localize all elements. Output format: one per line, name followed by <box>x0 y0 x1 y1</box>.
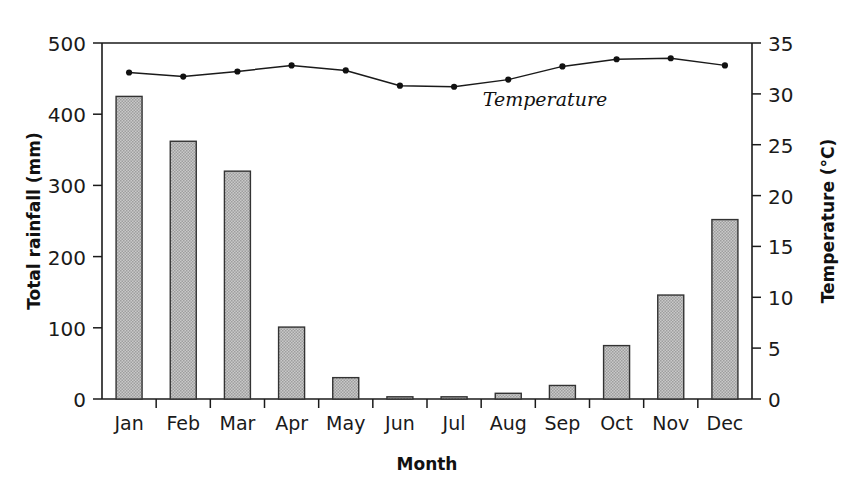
right-tick-group: 0 <box>752 388 781 412</box>
temperature-marker <box>234 68 240 74</box>
temperature-marker <box>668 55 674 61</box>
x-axis-title: Month <box>397 454 458 474</box>
temperature-marker <box>397 83 403 89</box>
rainfall-bar <box>224 171 250 399</box>
rainfall-bar <box>333 378 359 399</box>
right-tick-label: 20 <box>768 185 793 209</box>
right-tick-label: 10 <box>768 286 793 310</box>
x-tick-label: Nov <box>652 412 689 434</box>
right-tick-label: 15 <box>768 235 793 259</box>
temperature-marker <box>180 73 186 79</box>
left-tick-group: 200 <box>48 246 102 270</box>
temperature-marker <box>343 67 349 73</box>
right-tick-label: 5 <box>768 337 781 361</box>
right-tick-label: 0 <box>768 388 781 412</box>
left-tick-group: 500 <box>48 32 102 56</box>
temperature-marker <box>126 69 132 75</box>
right-tick-group: 30 <box>752 83 793 107</box>
plot-frame <box>102 43 752 399</box>
right-axis-ticks: 35 30 25 20 15 10 <box>752 32 793 412</box>
temperature-marker <box>505 77 511 83</box>
rainfall-bar <box>712 220 738 399</box>
right-tick-group: 5 <box>752 337 781 361</box>
x-axis-ticks <box>156 399 698 408</box>
rainfall-bar <box>116 96 142 399</box>
right-tick-group: 25 <box>752 134 793 158</box>
rainfall-bar <box>495 393 521 399</box>
left-tick-label: 500 <box>48 32 86 56</box>
right-axis-title: Temperature (°C) <box>818 139 838 304</box>
right-tick-label: 30 <box>768 83 793 107</box>
x-tick-label: Jan <box>113 412 143 434</box>
rainfall-bars <box>116 96 738 399</box>
temperature-marker <box>722 62 728 68</box>
temperature-marker <box>613 56 619 62</box>
x-tick-label: Oct <box>600 412 633 434</box>
temperature-marker <box>451 84 457 90</box>
left-tick-label: 100 <box>48 317 86 341</box>
right-tick-group: 20 <box>752 185 793 209</box>
right-tick-group: 10 <box>752 286 793 310</box>
rainfall-bar <box>441 397 467 399</box>
x-tick-label: Jun <box>384 412 415 434</box>
rainfall-bar <box>279 327 305 399</box>
left-tick-label: 200 <box>48 246 86 270</box>
x-axis-labels: JanFebMarAprMayJunJulAugSepOctNovDec <box>113 412 743 434</box>
right-tick-label: 25 <box>768 134 793 158</box>
right-tick-group: 15 <box>752 235 793 259</box>
left-tick-group: 100 <box>48 317 102 341</box>
temperature-series <box>126 55 728 90</box>
x-tick-label: Apr <box>275 412 308 434</box>
climograph-figure: 500 400 300 200 100 0 <box>0 0 865 492</box>
x-tick-label: May <box>326 412 365 434</box>
left-tick-group: 400 <box>48 103 102 127</box>
x-tick-label: Jul <box>442 412 466 434</box>
chart-canvas: 500 400 300 200 100 0 <box>0 0 865 492</box>
rainfall-bar <box>170 141 196 399</box>
left-axis-ticks: 500 400 300 200 100 0 <box>48 32 102 412</box>
left-tick-label: 300 <box>48 174 86 198</box>
rainfall-bar <box>658 295 684 399</box>
temperature-series-label: Temperature <box>483 88 607 110</box>
temperature-marker <box>288 62 294 68</box>
x-tick-label: Aug <box>490 412 527 434</box>
x-tick-label: Feb <box>166 412 200 434</box>
right-tick-label: 35 <box>768 32 793 56</box>
rainfall-bar <box>604 346 630 399</box>
x-tick-label: Sep <box>545 412 581 434</box>
left-tick-label: 0 <box>73 388 86 412</box>
rainfall-bar <box>549 385 575 399</box>
left-tick-group: 300 <box>48 174 102 198</box>
x-tick-label: Dec <box>707 412 744 434</box>
right-tick-group: 35 <box>752 32 793 56</box>
left-axis-title: Total rainfall (mm) <box>24 132 44 310</box>
temperature-line <box>129 58 725 86</box>
left-tick-label: 400 <box>48 103 86 127</box>
rainfall-bar <box>387 397 413 399</box>
left-tick-group: 0 <box>73 388 102 412</box>
x-tick-label: Mar <box>219 412 255 434</box>
temperature-marker <box>559 63 565 69</box>
